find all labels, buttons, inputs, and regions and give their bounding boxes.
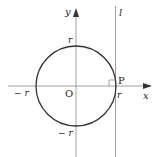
diagram-canvas: y l r P − r O r x − r	[0, 0, 160, 157]
pos-y-label: r	[68, 35, 73, 45]
origin-label: O	[65, 88, 73, 99]
line-l-label: l	[119, 7, 122, 18]
neg-x-label: − r	[14, 88, 29, 98]
neg-y-label: − r	[58, 128, 73, 138]
y-axis-arrow-icon	[73, 8, 79, 17]
x-axis-arrow-icon	[143, 83, 152, 89]
right-angle-marker	[109, 80, 116, 86]
pos-x-label: r	[117, 90, 122, 100]
x-axis-label: x	[143, 90, 149, 101]
y-axis-label: y	[64, 6, 71, 17]
point-p-label: P	[118, 75, 125, 86]
